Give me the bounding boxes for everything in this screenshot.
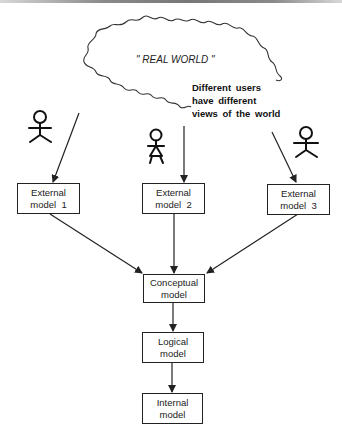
real-world-label: " REAL WORLD " (136, 54, 215, 65)
external-model-1-box: External model 1 (17, 183, 80, 214)
logical-model-box: Logical model (142, 332, 204, 363)
box-label: model (161, 289, 187, 301)
users-views-note: Different users have different views of … (192, 81, 280, 120)
note-line: Different users (192, 81, 280, 94)
user-icon (29, 111, 51, 142)
arrow-world-to-external-3 (272, 132, 296, 182)
internal-model-box: Internal model (142, 393, 203, 424)
box-label: External (156, 187, 191, 199)
box-label: Internal (157, 397, 189, 409)
box-label: External (31, 187, 66, 199)
conceptual-model-box: Conceptual model (143, 274, 205, 303)
note-line: have different (192, 94, 280, 107)
user-icon (148, 130, 164, 164)
box-label: model 2 (155, 199, 191, 211)
external-model-2-box: External model 2 (142, 183, 205, 214)
box-label: model (160, 348, 186, 360)
box-label: model 1 (30, 199, 66, 211)
arrow-world-to-external-1 (53, 113, 79, 182)
arrow-external-1-to-conceptual (50, 214, 142, 273)
diagram-canvas (0, 0, 342, 439)
box-label: Conceptual (150, 277, 198, 289)
user-icon (294, 127, 318, 157)
box-label: Logical (158, 336, 188, 348)
box-label: model 3 (280, 200, 316, 212)
external-model-3-box: External model 3 (267, 184, 330, 215)
note-line: views of the world (192, 107, 280, 120)
box-label: External (281, 188, 316, 200)
box-label: model (160, 409, 186, 421)
arrow-external-3-to-conceptual (207, 214, 298, 273)
cloud-tail (180, 106, 191, 108)
